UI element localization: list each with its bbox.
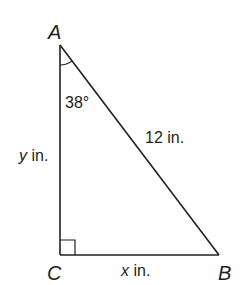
angle-a-label: 38° <box>65 95 89 111</box>
side-ac-unit: in. <box>27 147 48 164</box>
side-cb-label: x in. <box>121 263 150 279</box>
vertex-label-b: B <box>218 263 231 283</box>
vertex-label-c: C <box>47 263 61 283</box>
side-ac-variable: y <box>19 147 27 164</box>
side-ab-hypotenuse <box>60 45 219 255</box>
right-angle-marker-icon <box>60 240 75 255</box>
side-cb-variable: x <box>121 262 129 279</box>
angle-arc-icon <box>60 61 72 65</box>
vertex-label-a: A <box>48 22 61 42</box>
triangle-diagram: A C B 38° 12 in. y in. x in. <box>0 0 251 285</box>
side-ab-label: 12 in. <box>145 130 184 146</box>
side-cb-unit: in. <box>129 262 150 279</box>
triangle-figure <box>0 0 251 285</box>
side-ac-label: y in. <box>19 148 48 164</box>
